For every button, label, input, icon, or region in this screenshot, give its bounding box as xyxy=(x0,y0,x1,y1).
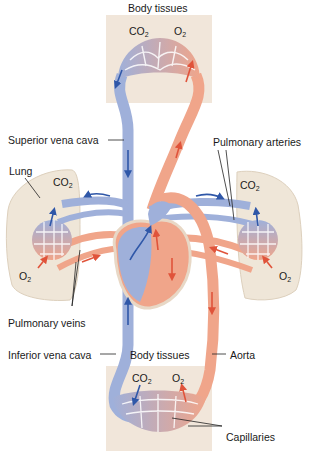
label-inferior-vena-cava: Inferior vena cava xyxy=(8,350,91,361)
label-body-tissues-bottom: Body tissues xyxy=(130,350,190,361)
label-body-tissues-top: Body tissues xyxy=(128,3,188,14)
gas-top-co2: CO2 xyxy=(129,26,149,38)
label-pulmonary-arteries: Pulmonary arteries xyxy=(213,137,301,148)
gas-bottom-o2: O2 xyxy=(172,373,184,385)
gas-right-lung-o2: O2 xyxy=(279,271,291,283)
label-lung: Lung xyxy=(9,166,32,177)
gas-bottom-co2: CO2 xyxy=(132,373,152,385)
circulation-diagram xyxy=(0,0,310,451)
gas-right-lung-co2: CO2 xyxy=(240,180,260,192)
left-pulmonary-artery xyxy=(62,200,128,205)
label-capillaries: Capillaries xyxy=(226,432,275,443)
gas-left-lung-co2: CO2 xyxy=(53,177,73,189)
label-superior-vena-cava: Superior vena cava xyxy=(8,135,98,146)
gas-top-o2: O2 xyxy=(174,26,186,38)
label-aorta: Aorta xyxy=(230,350,255,361)
label-pulmonary-veins: Pulmonary veins xyxy=(8,318,86,329)
gas-left-lung-o2: O2 xyxy=(19,271,31,283)
